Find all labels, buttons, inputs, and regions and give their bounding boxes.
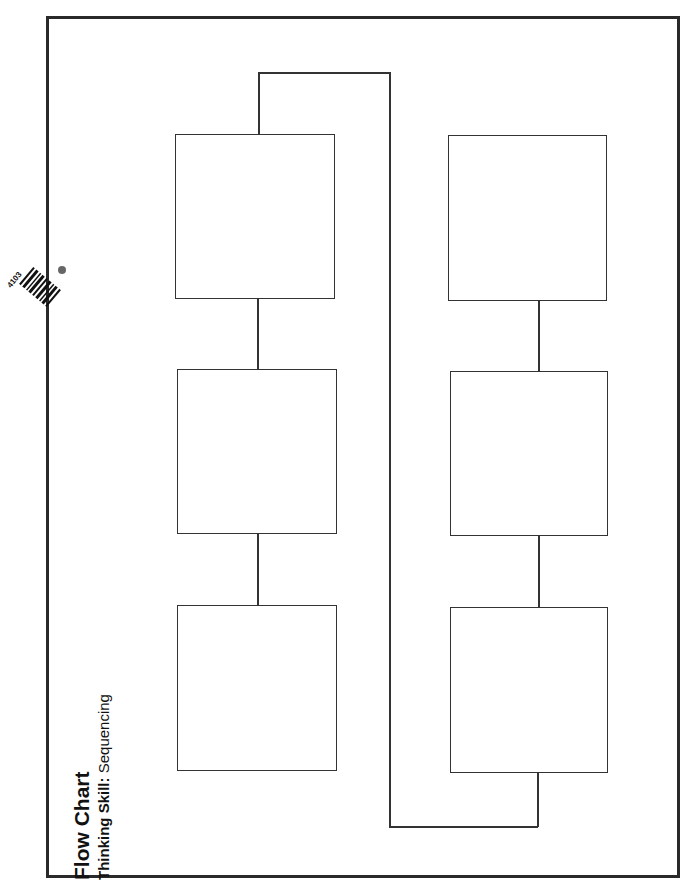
flow-box-6 bbox=[450, 607, 608, 773]
subtitle-value: Sequencing bbox=[95, 694, 112, 773]
connector-top-across bbox=[258, 72, 390, 74]
flow-box-1 bbox=[175, 134, 335, 299]
connector-top-up bbox=[258, 72, 260, 134]
subtitle-label: Thinking Skill: bbox=[95, 777, 112, 880]
connector-bottom-up bbox=[537, 773, 539, 827]
flow-box-4 bbox=[448, 135, 607, 301]
barcode-icon: 4103 bbox=[0, 262, 80, 312]
connector-middle-down bbox=[389, 72, 391, 827]
connector-bottom-across bbox=[389, 826, 538, 828]
flow-box-2 bbox=[177, 369, 337, 534]
svg-text:4103: 4103 bbox=[5, 270, 24, 290]
connector-5-6 bbox=[538, 536, 540, 607]
connector-1-2 bbox=[257, 299, 259, 369]
connector-4-5 bbox=[538, 301, 540, 371]
page-title: Flow Chart bbox=[70, 694, 94, 880]
page-subtitle: Thinking Skill: Sequencing bbox=[94, 694, 114, 880]
connector-2-3 bbox=[257, 534, 259, 605]
flow-box-3 bbox=[177, 605, 337, 771]
title-block: Flow Chart Thinking Skill: Sequencing bbox=[70, 694, 114, 880]
flow-box-5 bbox=[450, 371, 608, 536]
